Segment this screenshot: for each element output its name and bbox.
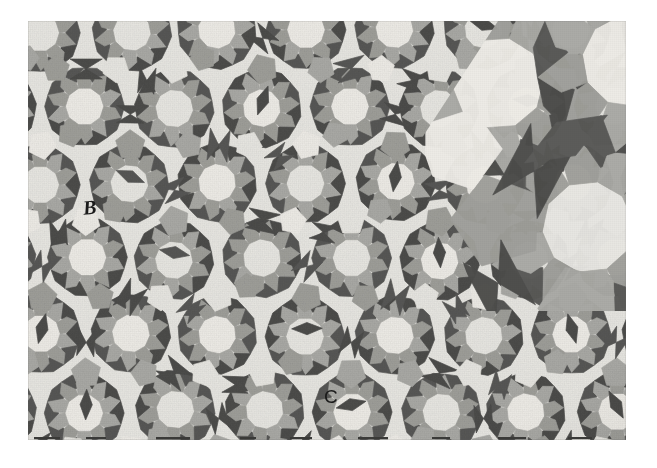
tiling-svg bbox=[28, 21, 626, 440]
figure-root: B C bbox=[0, 0, 657, 468]
figure-label-b: B bbox=[82, 196, 97, 217]
tiling-plate-inner bbox=[28, 21, 626, 440]
tiling-plate bbox=[28, 21, 626, 440]
figure-label-c: C bbox=[324, 387, 338, 406]
